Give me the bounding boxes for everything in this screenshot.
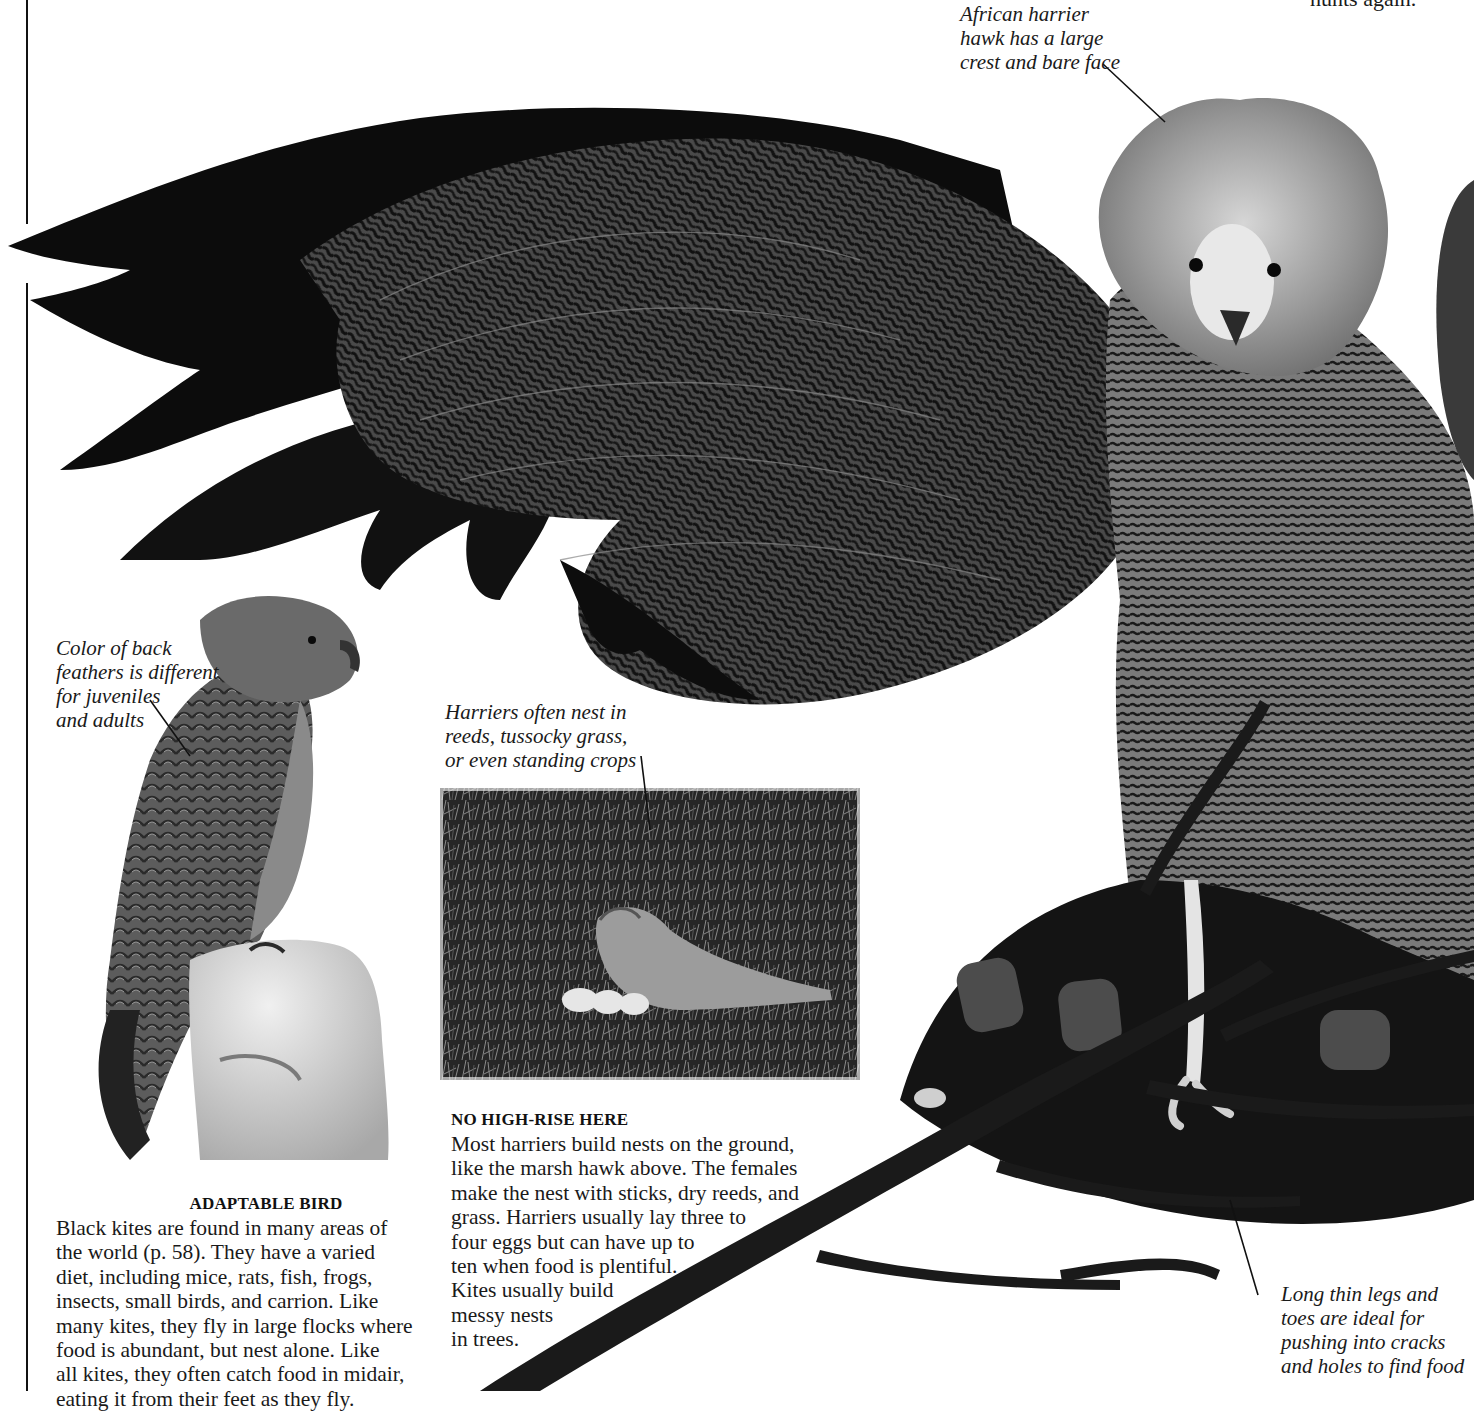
body-line: all kites, they often catch food in mida… — [56, 1362, 436, 1386]
body-line: many kites, they fly in large flocks whe… — [56, 1314, 436, 1338]
body-line: insects, small birds, and carrion. Like — [56, 1289, 436, 1313]
section-adaptable-bird: ADAPTABLE BIRD Black kites are found in … — [56, 1194, 436, 1411]
caption-back-feathers: Color of back feathers is different for … — [56, 636, 219, 732]
section-heading: NO HIGH-RISE HERE — [451, 1110, 831, 1130]
caption-harrier-nest: Harriers often nest in reeds, tussocky g… — [445, 700, 636, 772]
body-line: eating it from their feet as they fly. — [56, 1387, 436, 1411]
section-body: Most harriers build nests on the ground,… — [451, 1132, 831, 1352]
body-line: Kites usually build — [451, 1278, 831, 1302]
body-line: the world (p. 58). They have a varied — [56, 1240, 436, 1264]
section-no-high-rise: NO HIGH-RISE HERE Most harriers build ne… — [451, 1110, 831, 1352]
caption-african-harrier: African harrier hawk has a large crest a… — [960, 2, 1120, 74]
body-line: in trees. — [451, 1327, 831, 1351]
body-line: Most harriers build nests on the ground, — [451, 1132, 831, 1156]
body-line: diet, including mice, rats, fish, frogs, — [56, 1265, 436, 1289]
body-line: Black kites are found in many areas of — [56, 1216, 436, 1240]
body-line: make the nest with sticks, dry reeds, an… — [451, 1181, 831, 1205]
body-line: messy nests — [451, 1303, 831, 1327]
marsh-hawk-nest-photo — [440, 788, 860, 1080]
section-body: Black kites are found in many areas of t… — [56, 1216, 436, 1411]
body-line: four eggs but can have up to — [451, 1230, 831, 1254]
body-line: ten when food is plentiful. — [451, 1254, 831, 1278]
body-line: grass. Harriers usually lay three to — [451, 1205, 831, 1229]
section-heading: ADAPTABLE BIRD — [56, 1194, 436, 1214]
caption-long-legs: Long thin legs and toes are ideal for pu… — [1281, 1282, 1464, 1378]
body-line: food is abundant, but nest alone. Like — [56, 1338, 436, 1362]
body-line: like the marsh hawk above. The females — [451, 1156, 831, 1180]
